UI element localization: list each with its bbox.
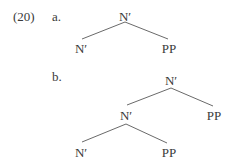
tree-b-right-node: PP xyxy=(162,146,176,159)
tree-b-root-node: N′ xyxy=(165,74,177,87)
branch-a-right xyxy=(125,22,168,39)
tree-a-root-node: N′ xyxy=(119,10,131,23)
tree-b-mid-node: N′ xyxy=(120,109,132,122)
tree-a-right-node: PP xyxy=(162,42,176,55)
branch-b-top-left xyxy=(127,88,171,105)
tree-a-left-node: N′ xyxy=(75,42,87,55)
branch-b-top-right xyxy=(171,88,213,106)
branch-b-mid-left xyxy=(82,124,126,142)
tree-branches xyxy=(0,0,233,164)
tree-b-mid-right-node: PP xyxy=(207,109,221,122)
branch-a-left xyxy=(82,22,125,39)
branch-b-mid-right xyxy=(126,124,167,143)
tree-b-left-node: N′ xyxy=(75,146,87,159)
